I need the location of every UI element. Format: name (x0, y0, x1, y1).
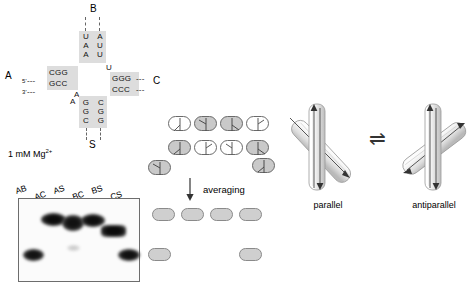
bottom-stem-right-column: C G G (96, 98, 106, 125)
gel-panel: 1 mM Mg2+ AB AC AS BC BS CS (0, 146, 150, 294)
nt: U (97, 50, 103, 59)
parallel-label: parallel (292, 200, 364, 210)
conformer-divider-icon (247, 141, 270, 156)
nt: U (97, 41, 103, 50)
nt: A (97, 32, 103, 41)
gel-band-cs (118, 249, 140, 261)
top-stem-right-column: A U U (95, 32, 105, 59)
conformer-pill (246, 140, 269, 155)
conformer-divider-icon (221, 117, 244, 132)
gel-image (18, 198, 140, 282)
nt: U (83, 32, 89, 41)
conformer-divider-icon (195, 117, 218, 132)
figure-canvas: B U A A A U U U A 5'--- CGG 3'--- (0, 0, 473, 294)
antiparallel-helix-icon (395, 96, 473, 206)
nt: G (98, 116, 104, 125)
lane-label-bs: BS (90, 183, 104, 196)
conformer-divider-icon (247, 117, 270, 132)
conformer-pill (246, 116, 269, 131)
averaged-pill (152, 208, 175, 221)
mg-condition-text: 1 mM Mg (8, 149, 46, 159)
dash: --- (136, 85, 145, 94)
nt: G (83, 107, 89, 116)
averaged-pill-outlier-left (148, 248, 171, 261)
left-arm-cgg: CGG (49, 68, 68, 77)
left-arm-gcc: GCC (49, 79, 67, 88)
nt: A (83, 50, 89, 59)
averaged-pill (239, 208, 262, 221)
conformer-pill-outlier-right (252, 158, 275, 173)
conformer-pill (220, 116, 243, 131)
conformer-pill (194, 140, 217, 155)
conformer-pill-outlier-left (148, 160, 171, 175)
lane-label-ab: AB (14, 183, 28, 196)
conformer-pill (194, 116, 217, 131)
loose-base-a-lower: A (70, 97, 76, 106)
nt: G (83, 98, 89, 107)
nt: A (83, 41, 89, 50)
gel-band-bs (101, 225, 126, 237)
antiparallel-label: antiparallel (395, 200, 473, 210)
conformer-divider-icon (253, 159, 276, 174)
dash: --- (136, 74, 145, 83)
conformer-divider-icon (195, 141, 218, 156)
averaging-panel: averaging (146, 100, 276, 294)
dash: --- (27, 87, 36, 96)
averaged-pill (181, 208, 204, 221)
conformer-pill (220, 140, 243, 155)
antiparallel-structure: antiparallel (395, 96, 473, 216)
right-arm-ccc: CCC (112, 85, 130, 94)
mg-charge-superscript: 2+ (46, 148, 53, 154)
bottom-stem-left-column: G G C (81, 98, 91, 125)
equilibrium-arrow: ⇌ (369, 128, 386, 148)
nt: C (98, 98, 104, 107)
averaged-pill-outlier-right (239, 248, 262, 261)
mg-condition-label: 1 mM Mg2+ (8, 148, 52, 159)
parallel-structure: parallel (278, 96, 378, 216)
arm-label-c: C (153, 75, 160, 86)
down-arrow-icon (184, 178, 198, 202)
dash-bottom-left (86, 128, 87, 140)
conformer-divider-icon (169, 117, 192, 132)
conformer-divider-icon (149, 161, 172, 176)
left-arm-bottom-strand: 3'--- (22, 80, 35, 98)
arm-label-a: A (5, 70, 12, 81)
gel-band-as-faint (67, 245, 80, 251)
dash-bottom-right (100, 128, 101, 140)
conformer-pill (168, 116, 191, 131)
parallel-helix-icon (278, 96, 378, 206)
nt: C (83, 116, 89, 125)
loose-base-u: U (106, 63, 112, 72)
top-stem-left-column: U A A (81, 32, 91, 59)
conformer-pill (168, 140, 191, 155)
averaged-pill (210, 208, 233, 221)
gel-band-ab (23, 249, 44, 261)
conformer-divider-icon (169, 141, 192, 156)
nt: G (98, 107, 104, 116)
dash-top-right (99, 17, 100, 31)
right-arm-ggg: GGG (112, 74, 131, 83)
dash-top-left (85, 17, 86, 31)
arm-label-b: B (90, 3, 97, 14)
lane-label-as: AS (52, 183, 66, 196)
averaging-label: averaging (203, 184, 245, 195)
conformer-divider-icon (221, 141, 244, 156)
